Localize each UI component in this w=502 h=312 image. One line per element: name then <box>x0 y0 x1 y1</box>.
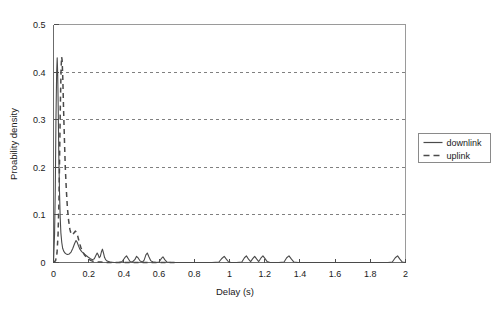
x-tick-label-5: 1 <box>227 269 232 279</box>
y-tick-label-5: 0.5 <box>33 20 46 30</box>
y-axis-title: Proability density <box>8 108 19 180</box>
x-axis-title: Delay (s) <box>216 286 254 297</box>
y-tick-label-1: 0.1 <box>33 210 46 220</box>
y-tick-label-4: 0.4 <box>33 68 46 78</box>
chart-legend: downlinkuplink <box>419 134 491 163</box>
chart-figure: 00.20.40.60.811.21.41.61.82 00.10.20.30.… <box>0 0 502 312</box>
y-tick-label-3: 0.3 <box>33 115 46 125</box>
legend-label-downlink: downlink <box>447 138 483 148</box>
y-tick-labels: 00.10.20.30.40.5 <box>33 20 46 268</box>
x-tick-label-6: 1.2 <box>258 269 271 279</box>
x-tick-label-4: 0.8 <box>188 269 201 279</box>
x-tick-label-2: 0.4 <box>118 269 131 279</box>
x-tick-label-3: 0.6 <box>153 269 166 279</box>
series-line-uplink <box>54 57 177 263</box>
data-series <box>54 57 406 263</box>
x-tick-label-8: 1.6 <box>329 269 342 279</box>
x-tick-label-10: 2 <box>403 269 408 279</box>
x-tick-label-7: 1.4 <box>294 269 307 279</box>
x-tick-label-9: 1.8 <box>364 269 377 279</box>
y-tick-label-2: 0.2 <box>33 163 46 173</box>
plot-frame <box>54 25 406 263</box>
x-tick-labels: 00.20.40.60.811.21.41.61.82 <box>51 269 408 279</box>
gridlines <box>54 72 406 215</box>
y-tick-label-0: 0 <box>40 258 45 268</box>
series-line-downlink <box>54 58 406 263</box>
probability-density-chart: 00.20.40.60.811.21.41.61.82 00.10.20.30.… <box>0 0 502 312</box>
legend-label-uplink: uplink <box>447 151 471 161</box>
x-tick-label-1: 0.2 <box>82 269 95 279</box>
x-tick-label-0: 0 <box>51 269 56 279</box>
